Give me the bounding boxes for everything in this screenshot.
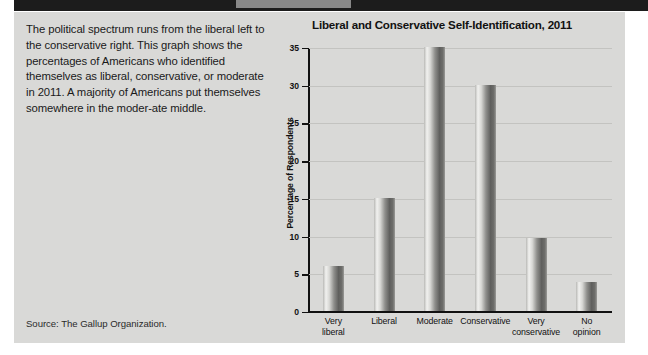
bar-chart: Liberal and Conservative Self-Identifica…: [262, 18, 622, 338]
bar: [526, 238, 547, 311]
gridline: [309, 199, 612, 200]
y-axis-label: Percentage of Respondents: [285, 93, 295, 253]
bar: [475, 85, 496, 311]
x-axis-tick-label-line: opinion: [555, 327, 619, 338]
gridline: [309, 86, 612, 87]
y-axis-tick: [302, 123, 308, 124]
y-axis-tick: [302, 274, 308, 275]
x-axis-tick-label-line: liberal: [301, 327, 365, 338]
figure-caption: The political spectrum runs from the lib…: [26, 22, 266, 117]
source-note: Source: The Gallup Organization.: [26, 318, 167, 329]
gridline: [309, 48, 612, 49]
gridline: [309, 274, 612, 275]
x-axis-tick-label: Noopinion: [555, 316, 619, 337]
y-axis-tick-label: 10: [289, 232, 299, 242]
y-axis-tick-label: 25: [289, 118, 299, 128]
bar: [424, 47, 445, 311]
bar: [323, 266, 344, 311]
figure-panel: The political spectrum runs from the lib…: [0, 0, 648, 355]
chart-title: Liberal and Conservative Self-Identifica…: [262, 18, 622, 31]
header-band-accent: [236, 0, 351, 8]
y-axis-tick-label: 0: [294, 307, 299, 317]
page-right-margin: [625, 12, 648, 343]
y-axis-tick-label: 35: [289, 43, 299, 53]
y-axis-line: [308, 48, 310, 312]
y-axis-tick: [302, 86, 308, 87]
y-axis-tick-label: 20: [289, 156, 299, 166]
bar: [374, 198, 395, 311]
y-axis-tick-label: 30: [289, 81, 299, 91]
y-axis-tick-label: 15: [289, 194, 299, 204]
gridline: [309, 237, 612, 238]
y-axis-tick: [302, 199, 308, 200]
x-axis-line: [308, 311, 612, 313]
gridline: [309, 123, 612, 124]
page-left-margin: [0, 12, 14, 343]
plot-area: 05101520253035 VeryliberalLiberalModerat…: [308, 48, 612, 312]
y-axis-tick: [302, 237, 308, 238]
bar: [576, 282, 597, 311]
y-axis-tick: [302, 312, 308, 313]
y-axis-tick-label: 5: [294, 269, 299, 279]
gridline: [309, 161, 612, 162]
page-bottom-margin: [0, 343, 648, 355]
x-axis-tick-label-line: No: [555, 316, 619, 327]
y-axis-tick: [302, 161, 308, 162]
y-axis-tick: [302, 48, 308, 49]
